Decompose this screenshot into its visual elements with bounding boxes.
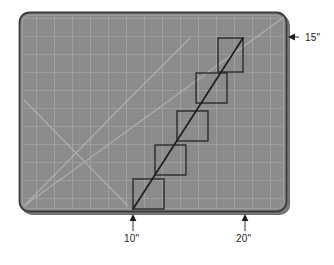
mat-surface	[19, 12, 287, 212]
start-measure-label: 10"	[124, 233, 139, 244]
figure-canvas: 15" 10" 20"	[0, 0, 334, 265]
start-annotation	[130, 214, 137, 231]
up-arrow-icon-end	[242, 214, 249, 221]
end-annotation	[242, 214, 249, 231]
diagram-svg	[0, 0, 334, 265]
end-measure-label: 20"	[236, 233, 251, 244]
height-label: 15"	[305, 32, 320, 43]
cutting-mat	[19, 12, 287, 212]
up-arrow-icon-start	[130, 214, 137, 221]
